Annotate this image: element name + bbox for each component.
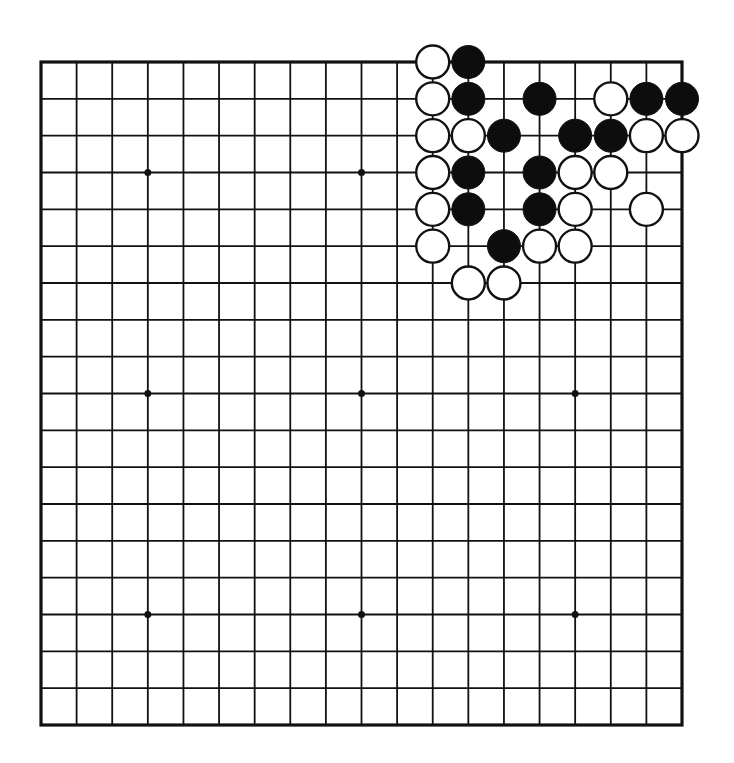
star-point xyxy=(144,390,151,397)
black-stone xyxy=(452,82,485,115)
black-stone xyxy=(523,156,556,189)
go-board-diagram xyxy=(0,0,734,763)
white-stone xyxy=(559,193,592,226)
white-stone xyxy=(416,119,449,152)
white-stone xyxy=(416,46,449,79)
white-stone xyxy=(452,119,485,152)
black-stone xyxy=(487,119,520,152)
star-point xyxy=(572,390,579,397)
star-point xyxy=(358,390,365,397)
white-stone xyxy=(559,230,592,263)
white-stone xyxy=(559,156,592,189)
black-stone xyxy=(487,230,520,263)
white-stone xyxy=(452,267,485,300)
white-stone xyxy=(416,193,449,226)
white-stone xyxy=(666,119,699,152)
star-point xyxy=(144,169,151,176)
white-stone xyxy=(594,82,627,115)
black-stone xyxy=(630,82,663,115)
white-stone xyxy=(523,230,556,263)
black-stone xyxy=(666,82,699,115)
go-board xyxy=(0,0,734,763)
star-point xyxy=(358,169,365,176)
star-point xyxy=(144,611,151,618)
star-point xyxy=(572,611,579,618)
white-stone xyxy=(416,82,449,115)
black-stone xyxy=(452,193,485,226)
black-stone xyxy=(594,119,627,152)
star-point xyxy=(358,611,365,618)
black-stone xyxy=(559,119,592,152)
white-stone xyxy=(630,193,663,226)
white-stone xyxy=(416,230,449,263)
white-stone xyxy=(630,119,663,152)
black-stone xyxy=(523,82,556,115)
black-stone xyxy=(452,156,485,189)
black-stone xyxy=(452,46,485,79)
white-stone xyxy=(487,267,520,300)
white-stone xyxy=(594,156,627,189)
white-stone xyxy=(416,156,449,189)
black-stone xyxy=(523,193,556,226)
